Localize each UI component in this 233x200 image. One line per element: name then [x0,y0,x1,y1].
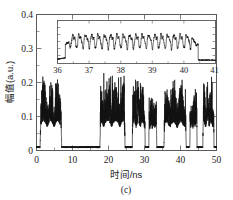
y-tick-label-2: 0.2 [21,78,33,88]
y-tick-label-3: 0.3 [21,44,33,54]
inset-x-tick-label-5: 41 [210,65,219,75]
y-axis-ticks [37,15,217,151]
chart-svg: 0.4 0.3 0.2 0.1 0 0 10 20 30 40 50 时间/ns… [0,0,233,200]
y-tick-label-0: 0 [28,146,33,156]
x-tick-label-3: 30 [140,155,150,165]
inset-signal-trace [58,33,216,61]
figure-caption: (c) [121,185,132,196]
inset-x-tick-label-3: 39 [148,65,157,75]
y-tick-label-4: 0.4 [21,10,33,20]
inset-x-tick-label-0: 36 [53,65,62,75]
y-axis-title: 幅值(a.u.) [4,61,15,103]
x-tick-label-0: 0 [34,155,39,165]
x-axis-title: 时间/ns [110,169,143,180]
main-signal-trace [37,73,217,148]
figure-chart: 0.4 0.3 0.2 0.1 0 0 10 20 30 40 50 时间/ns… [0,0,233,200]
inset-x-tick-label-2: 38 [116,65,125,75]
inset-x-tick-label-1: 37 [85,65,94,75]
inset-axis-ticks [58,21,216,64]
x-axis-ticks [37,15,217,151]
x-tick-label-2: 20 [104,155,114,165]
y-tick-label-1: 0.1 [21,112,33,122]
x-tick-label-4: 40 [176,155,186,165]
inset-x-tick-label-4: 40 [180,65,189,75]
x-tick-label-5: 50 [212,155,222,165]
main-plot-frame [37,15,217,151]
inset-plot-frame [58,21,216,64]
x-tick-label-1: 10 [68,155,78,165]
